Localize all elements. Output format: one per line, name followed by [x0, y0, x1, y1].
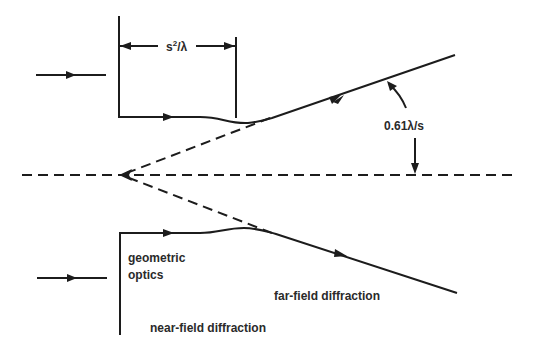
distance-label: s2/λ: [166, 39, 187, 54]
incoming-beam-top: [36, 71, 106, 79]
beam-top: [119, 55, 455, 123]
virtual-source-arrowhead: [119, 169, 132, 181]
far-field-label: far-field diffraction: [274, 289, 380, 303]
near-field-label: near-field diffraction: [150, 321, 266, 335]
extension-line-top: [124, 118, 270, 174]
diffraction-diagram: s2/λ 0.61λ/s geometric optics far-field …: [0, 0, 537, 355]
incoming-beam-bottom: [37, 274, 107, 282]
geometric-optics-label-line2: optics: [128, 268, 164, 282]
extension-line-bottom: [124, 176, 272, 233]
angle-label: 0.61λ/s: [384, 119, 424, 133]
geometric-optics-label-line1: geometric: [128, 251, 186, 265]
